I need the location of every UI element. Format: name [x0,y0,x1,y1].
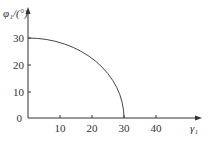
y-tick-label-0: 0 [17,112,23,124]
chart: 0 10 20 30 10 20 30 40 φ₁/(°) γ₁ [0,0,210,146]
y-tick-label-30: 30 [13,32,25,44]
y-tick-label-20: 20 [13,59,25,71]
data-curve [28,38,124,118]
x-tick-label-40: 40 [151,122,163,134]
x-tick-label-10: 10 [55,122,67,134]
chart-svg: 0 10 20 30 10 20 30 40 φ₁/(°) γ₁ [0,0,210,146]
x-axis-arrow-icon [195,116,202,121]
y-axis-label: φ₁/(°) [3,7,28,20]
x-tick-label-30: 30 [119,122,131,134]
x-axis-label: γ₁ [190,122,198,134]
y-tick-label-10: 10 [13,86,25,98]
x-tick-label-20: 20 [87,122,99,134]
